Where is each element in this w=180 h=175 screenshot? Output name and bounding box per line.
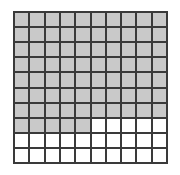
grid-cell-shaded [122, 58, 135, 71]
grid-cell-unshaded [153, 149, 166, 162]
grid-cell-shaded [137, 13, 150, 26]
grid-cell-shaded [30, 73, 43, 86]
grid-cell-shaded [122, 104, 135, 117]
grid-cell-shaded [30, 13, 43, 26]
grid-cell-shaded [61, 28, 74, 41]
grid-cell-shaded [92, 104, 105, 117]
grid-cell-shaded [61, 43, 74, 56]
grid-cell-shaded [15, 104, 28, 117]
grid-cell-shaded [15, 13, 28, 26]
grid-cell-shaded [30, 89, 43, 102]
grid-cell-shaded [107, 73, 120, 86]
grid-cell-shaded [46, 119, 59, 132]
grid-cell-unshaded [153, 119, 166, 132]
grid-cell-shaded [46, 89, 59, 102]
grid-cell-unshaded [153, 134, 166, 147]
grid-cell-shaded [137, 73, 150, 86]
grid-cell-shaded [30, 119, 43, 132]
grid-cell-unshaded [122, 119, 135, 132]
grid-cell-shaded [107, 28, 120, 41]
grid-cell-shaded [76, 119, 89, 132]
grid-cell-unshaded [46, 134, 59, 147]
grid-cell-shaded [61, 58, 74, 71]
grid-cell-shaded [153, 104, 166, 117]
grid-cell-shaded [137, 43, 150, 56]
grid-cell-unshaded [122, 149, 135, 162]
grid-cell-shaded [46, 58, 59, 71]
grid-cell-unshaded [30, 149, 43, 162]
grid-cell-shaded [30, 58, 43, 71]
grid-cell-unshaded [46, 149, 59, 162]
grid-cell-shaded [92, 58, 105, 71]
grid-cell-shaded [122, 28, 135, 41]
grid-cell-unshaded [61, 149, 74, 162]
grid-cell-shaded [76, 43, 89, 56]
grid-cell-shaded [92, 13, 105, 26]
grid-cell-shaded [30, 104, 43, 117]
grid-cell-shaded [15, 73, 28, 86]
grid-cell-unshaded [76, 149, 89, 162]
grid-cell-shaded [15, 28, 28, 41]
grid-cell-shaded [46, 73, 59, 86]
grid-cell-shaded [122, 89, 135, 102]
figure-root [0, 0, 180, 175]
grid-cell-shaded [61, 73, 74, 86]
grid-cell-unshaded [15, 134, 28, 147]
grid-cell-shaded [137, 28, 150, 41]
grid-cell-shaded [61, 89, 74, 102]
grid-cell-shaded [76, 28, 89, 41]
grid-cell-shaded [46, 28, 59, 41]
grid-cell-unshaded [137, 134, 150, 147]
grid-cell-unshaded [137, 119, 150, 132]
grid-cell-unshaded [92, 134, 105, 147]
grid-cell-unshaded [122, 134, 135, 147]
grid-cell-shaded [153, 89, 166, 102]
hundredths-grid [13, 11, 168, 164]
grid-cell-shaded [107, 13, 120, 26]
grid-cell-unshaded [15, 149, 28, 162]
grid-cell-shaded [46, 104, 59, 117]
grid-cell-shaded [122, 13, 135, 26]
grid-cell-unshaded [61, 134, 74, 147]
grid-cell-shaded [92, 43, 105, 56]
grid-cell-shaded [15, 43, 28, 56]
grid-cell-shaded [107, 104, 120, 117]
grid-cell-shaded [153, 28, 166, 41]
grid-cell-unshaded [107, 119, 120, 132]
grid-cell-unshaded [30, 134, 43, 147]
grid-cell-shaded [153, 13, 166, 26]
grid-cell-unshaded [92, 149, 105, 162]
grid-cell-shaded [76, 73, 89, 86]
grid-cell-shaded [15, 58, 28, 71]
grid-cell-shaded [76, 104, 89, 117]
grid-cell-shaded [107, 89, 120, 102]
grid-cell-shaded [137, 89, 150, 102]
grid-cell-shaded [15, 119, 28, 132]
grid-cell-shaded [122, 43, 135, 56]
grid-cell-unshaded [137, 149, 150, 162]
grid-cell-shaded [76, 58, 89, 71]
grid-cell-shaded [153, 43, 166, 56]
grid-cell-shaded [46, 13, 59, 26]
grid-cell-shaded [122, 73, 135, 86]
grid-cell-shaded [76, 13, 89, 26]
grid-cell-shaded [92, 28, 105, 41]
grid-cell-shaded [137, 104, 150, 117]
grid-cell-shaded [107, 58, 120, 71]
grid-cell-shaded [92, 89, 105, 102]
grid-cell-shaded [30, 28, 43, 41]
grid-cell-shaded [15, 89, 28, 102]
grid-cell-shaded [61, 13, 74, 26]
grid-cell-unshaded [76, 134, 89, 147]
grid-cell-shaded [107, 43, 120, 56]
grid-cell-unshaded [92, 119, 105, 132]
grid-cell-shaded [46, 43, 59, 56]
grid-cell-shaded [61, 104, 74, 117]
grid-cell-shaded [92, 73, 105, 86]
grid-cell-unshaded [107, 149, 120, 162]
grid-cell-unshaded [107, 134, 120, 147]
grid-cell-shaded [76, 89, 89, 102]
grid-cell-shaded [153, 58, 166, 71]
grid-cell-shaded [137, 58, 150, 71]
grid-cell-shaded [153, 73, 166, 86]
